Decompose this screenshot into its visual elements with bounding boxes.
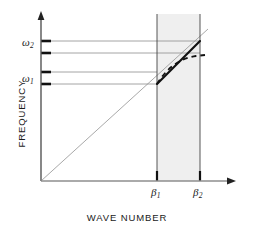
x-tick-beta2-subscript: 2 — [198, 191, 202, 200]
y-tick-omega1-subscript: 1 — [30, 77, 34, 86]
dispersion-diagram-figure: ω2 ω1 β1 β2 FREQUENCY WAVE NUMBER — [0, 0, 255, 234]
y-axis-title: FREQUENCY — [16, 66, 27, 162]
shaded-band-region — [157, 14, 200, 181]
x-tick-beta1-subscript: 1 — [156, 191, 160, 200]
x-tick-label-beta2: β2 — [193, 186, 203, 200]
y-tick-omega2-subscript: 2 — [30, 41, 34, 50]
x-axis-title: WAVE NUMBER — [57, 212, 197, 223]
x-axis-arrowhead — [227, 178, 236, 185]
y-tick-omega2-symbol: ω — [22, 36, 30, 48]
plot-canvas — [0, 0, 255, 234]
y-axis-arrowhead — [38, 11, 45, 20]
y-tick-label-omega2: ω2 — [22, 36, 34, 50]
x-tick-label-beta1: β1 — [151, 186, 161, 200]
